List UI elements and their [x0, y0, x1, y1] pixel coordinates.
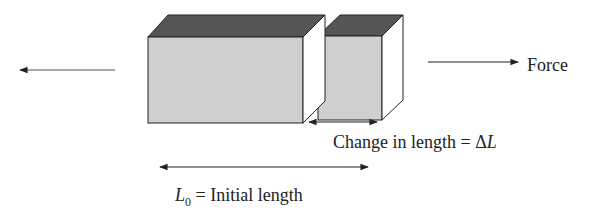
original-block [148, 15, 325, 123]
initial-length-label: L0 = Initial length [174, 185, 303, 209]
force-label: Force [527, 55, 568, 75]
tensile-stretch-diagram: Force Change in length = ΔL L0 = Initial… [0, 0, 598, 219]
extension-front-face [318, 36, 382, 120]
change-in-length-label: Change in length = ΔL [333, 132, 497, 152]
extension-block [318, 15, 403, 120]
original-top-face [148, 15, 325, 37]
original-front-face [148, 37, 303, 123]
